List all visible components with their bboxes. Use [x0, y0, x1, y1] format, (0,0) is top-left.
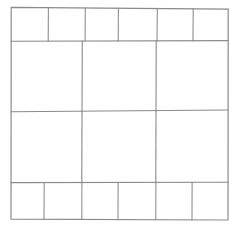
outer-border: [11, 7, 228, 220]
row-divider-1: [11, 41, 228, 42]
row-divider-2: [11, 110, 228, 112]
grid-canvas: [0, 0, 234, 229]
grid-diagram: [0, 0, 234, 229]
